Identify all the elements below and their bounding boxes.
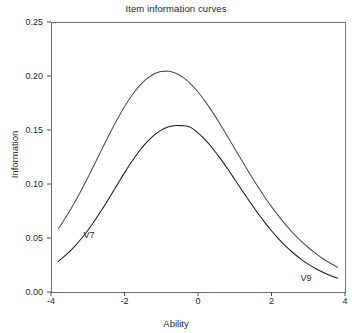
series-line-V9 [58, 71, 337, 267]
chart-container: Item information curves Information 0.00… [0, 0, 352, 333]
curve-label-V9: V9 [300, 273, 311, 283]
series-line-V7 [58, 125, 337, 278]
plot-area [0, 0, 352, 333]
plot-frame [52, 23, 346, 293]
curve-label-V7: V7 [84, 230, 95, 240]
